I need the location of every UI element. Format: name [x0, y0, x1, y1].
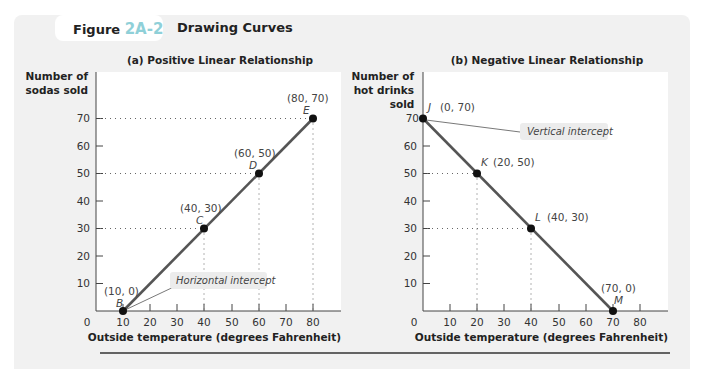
svg-text:10: 10	[443, 316, 456, 328]
svg-text:E: E	[303, 104, 310, 116]
left-ylabel-2: sodas sold	[25, 84, 88, 96]
svg-text:30: 30	[170, 316, 183, 328]
svg-text:70: 70	[406, 112, 419, 124]
svg-text:(70, 0): (70, 0)	[601, 282, 636, 294]
point-M	[609, 307, 617, 315]
svg-text:B: B	[116, 297, 123, 309]
svg-text:60: 60	[252, 316, 265, 328]
svg-text:40: 40	[524, 316, 537, 328]
svg-text:50: 50	[404, 167, 417, 179]
right-ylabel-1: Number of	[352, 70, 415, 82]
right-y-tick-labels: 10 20 30 40 50 60 70	[404, 112, 419, 289]
svg-text:(0, 70): (0, 70)	[440, 101, 475, 113]
svg-text:L: L	[535, 211, 541, 223]
svg-text:80: 80	[633, 316, 646, 328]
svg-text:50: 50	[552, 316, 565, 328]
svg-text:10: 10	[404, 277, 417, 289]
charts-svg: (a) Positive Linear Relationship Number …	[0, 0, 705, 369]
svg-text:M: M	[614, 294, 623, 306]
svg-text:K: K	[481, 156, 489, 168]
left-chart-title: (a) Positive Linear Relationship	[127, 54, 314, 66]
svg-text:70: 70	[279, 316, 292, 328]
svg-text:C: C	[196, 214, 204, 226]
right-chart-title: (b) Negative Linear Relationship	[451, 54, 644, 66]
svg-text:60: 60	[579, 316, 592, 328]
svg-text:(80, 70): (80, 70)	[287, 92, 329, 104]
svg-text:40: 40	[404, 195, 417, 207]
right-x-tick-labels: 0 10 20 30 40 50 60 70 80	[411, 316, 647, 328]
svg-text:0: 0	[411, 316, 418, 328]
svg-text:60: 60	[404, 140, 417, 152]
right-annotation: Vertical intercept	[527, 126, 614, 137]
svg-text:20: 20	[470, 316, 483, 328]
left-annotation: Horizontal intercept	[176, 275, 277, 286]
svg-text:(10, 0): (10, 0)	[104, 285, 139, 297]
svg-text:20: 20	[404, 250, 417, 262]
svg-text:60: 60	[77, 140, 90, 152]
right-ylabel-2: hot drinks	[354, 84, 414, 96]
point-L	[527, 225, 535, 233]
svg-text:(60, 50): (60, 50)	[234, 147, 276, 159]
left-y-tick-labels: 10 20 30 40 50 60 70	[77, 112, 90, 289]
svg-text:20: 20	[143, 316, 156, 328]
svg-text:30: 30	[77, 222, 90, 234]
point-E	[309, 115, 317, 123]
svg-text:0: 0	[84, 316, 91, 328]
svg-text:70: 70	[77, 112, 90, 124]
left-ylabel-1: Number of	[26, 70, 89, 82]
svg-text:10: 10	[77, 277, 90, 289]
svg-text:30: 30	[404, 222, 417, 234]
svg-text:50: 50	[225, 316, 238, 328]
right-x-label: Outside temperature (degrees Fahrenheit)	[415, 331, 668, 343]
svg-text:(40, 30): (40, 30)	[547, 211, 589, 223]
svg-text:30: 30	[497, 316, 510, 328]
svg-text:70: 70	[606, 316, 619, 328]
svg-text:20: 20	[77, 250, 90, 262]
left-x-tick-labels: 0 10 20 30 40 50 60 70 80	[84, 316, 320, 328]
svg-text:(20, 50): (20, 50)	[493, 156, 535, 168]
right-ylabel-3: sold	[390, 98, 415, 110]
left-x-label: Outside temperature (degrees Fahrenheit)	[88, 331, 341, 343]
svg-text:40: 40	[77, 195, 90, 207]
point-K	[473, 170, 481, 178]
point-J	[419, 115, 427, 123]
svg-text:50: 50	[77, 167, 90, 179]
svg-text:40: 40	[197, 316, 210, 328]
svg-text:80: 80	[306, 316, 319, 328]
svg-text:D: D	[249, 159, 257, 171]
svg-text:10: 10	[116, 316, 129, 328]
svg-text:(40, 30): (40, 30)	[180, 202, 222, 214]
